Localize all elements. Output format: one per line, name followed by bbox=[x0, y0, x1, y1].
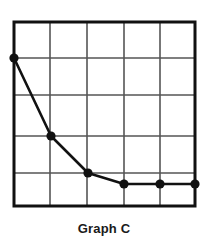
data-point-2 bbox=[46, 131, 55, 140]
data-point-3 bbox=[83, 168, 92, 177]
chart-caption: Graph C bbox=[0, 221, 208, 236]
data-point-5 bbox=[155, 179, 164, 188]
line-chart-plot bbox=[0, 0, 208, 247]
graph-figure: Graph C bbox=[0, 0, 208, 247]
data-point-4 bbox=[119, 179, 128, 188]
